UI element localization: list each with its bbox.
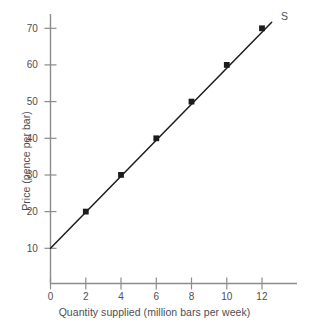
y-tick-label-70: 70 [18,23,38,34]
x-tick-label-12: 12 [252,291,272,302]
x-tick-label-4: 4 [111,291,131,302]
series-label-s: S [281,10,288,22]
x-tick-label-6: 6 [146,291,166,302]
chart-canvas [0,0,309,333]
data-point-markers [83,25,265,214]
data-point-12-70 [259,25,265,31]
axes-group [50,14,297,284]
x-axis-title: Quantity supplied (million bars per week… [0,306,309,318]
x-tick-label-8: 8 [182,291,202,302]
supply-curve-chart: 70 60 50 40 30 20 10 0 2 4 6 8 10 12 S Q… [0,0,309,333]
data-point-4-30 [118,172,124,178]
x-tick-label-10: 10 [217,291,237,302]
y-axis-title: Price (pence per bar) [20,86,32,236]
data-point-6-40 [153,135,159,141]
x-tick-label-2: 2 [76,291,96,302]
data-point-8-50 [189,99,195,105]
y-tick-label-10: 10 [18,243,38,254]
x-tick-label-0: 0 [41,291,61,302]
data-point-2-20 [83,209,89,215]
data-point-10-60 [224,62,230,68]
y-tick-label-60: 60 [18,59,38,70]
